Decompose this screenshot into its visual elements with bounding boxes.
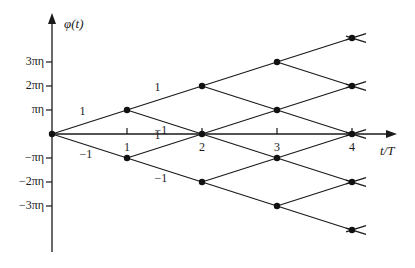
x-axis-arrow-icon [386, 130, 397, 138]
x-tick-label: 4 [349, 141, 355, 153]
y-axis-label: φ(t) [64, 17, 83, 30]
trellis-node [199, 179, 205, 185]
trellis-node [349, 83, 355, 89]
branch-label: 1 [80, 105, 86, 117]
trellis-node [274, 107, 280, 113]
trellis-node [349, 35, 355, 41]
trellis-edge [277, 158, 352, 182]
trellis-edge [277, 134, 352, 158]
y-tick-label: −πη [0, 151, 44, 163]
y-tick-label: πη [0, 103, 44, 115]
x-axis-label: t/T [380, 144, 394, 157]
trellis-node [124, 155, 130, 161]
trellis-node [274, 59, 280, 65]
branch-label: −1 [155, 172, 168, 184]
trellis-node [49, 131, 55, 137]
trellis-edge [202, 62, 277, 86]
trellis-edge [277, 62, 352, 86]
y-tick-label: −2πη [0, 175, 44, 187]
trellis-node [274, 203, 280, 209]
phase-trellis-diagram [0, 0, 415, 268]
trellis-edge [277, 38, 352, 62]
y-tick-label: 3πη [0, 55, 44, 67]
y-tick-label: 2πη [0, 79, 44, 91]
trellis-edge [52, 110, 127, 134]
trellis-edge [202, 158, 277, 182]
trellis-edge [202, 134, 277, 158]
trellis-node [349, 131, 355, 137]
y-tick-label: −3πη [0, 199, 44, 211]
trellis-edge [277, 182, 352, 206]
x-tick-label: 3 [274, 141, 280, 153]
branch-label: −1 [80, 148, 93, 160]
trellis-edge [202, 86, 277, 110]
trellis-node [349, 179, 355, 185]
branch-label: 1 [155, 129, 161, 141]
trellis-edge [127, 134, 202, 158]
branch-label: 1 [155, 81, 161, 93]
trellis-edge [277, 110, 352, 134]
trellis-edge [202, 110, 277, 134]
trellis-node [124, 107, 130, 113]
trellis-edge [202, 182, 277, 206]
trellis-edge [127, 86, 202, 110]
y-axis-arrow-icon [48, 13, 56, 24]
trellis-edge [277, 86, 352, 110]
axes [52, 22, 388, 252]
trellis-node [274, 155, 280, 161]
x-tick-label: 1 [124, 141, 130, 153]
trellis-node [199, 83, 205, 89]
trellis-node [199, 131, 205, 137]
trellis-node [349, 227, 355, 233]
x-tick-label: 2 [199, 141, 205, 153]
trellis-edge [277, 206, 352, 230]
